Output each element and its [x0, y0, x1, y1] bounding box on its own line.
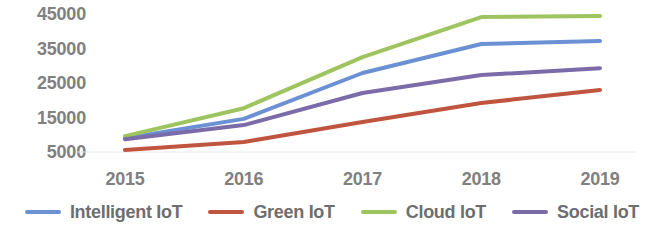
legend-item-intelligent-iot[interactable]: Intelligent IoT — [25, 202, 183, 222]
y-axis-tick-label: 5000 — [0, 143, 86, 161]
x-axis-tick-label: 2017 — [318, 168, 408, 190]
x-axis-tick-label: 2015 — [80, 168, 170, 190]
legend-label: Social IoT — [557, 202, 639, 222]
y-axis: 450003500025000150005000 — [0, 0, 86, 170]
x-axis-tick-label: 2019 — [555, 168, 645, 190]
x-axis-tick-label: 2018 — [436, 168, 526, 190]
legend-label: Cloud IoT — [406, 202, 486, 222]
legend-item-green-iot[interactable]: Green IoT — [208, 202, 334, 222]
series-line-cloud-iot — [125, 16, 600, 136]
legend-color-swatch — [361, 210, 397, 214]
legend-color-swatch — [512, 210, 548, 214]
y-axis-tick-label: 45000 — [0, 5, 86, 23]
legend-label: Intelligent IoT — [70, 202, 183, 222]
series-lines-svg — [95, 5, 635, 165]
y-axis-tick-label: 25000 — [0, 74, 86, 92]
legend-color-swatch — [208, 210, 244, 214]
x-axis: 20152016201720182019 — [95, 168, 635, 194]
legend-item-social-iot[interactable]: Social IoT — [512, 202, 639, 222]
x-axis-tick-label: 2016 — [199, 168, 289, 190]
plot-area — [95, 5, 635, 165]
legend-color-swatch — [25, 210, 61, 214]
y-axis-tick-label: 15000 — [0, 109, 86, 127]
legend-label: Green IoT — [253, 202, 334, 222]
chart-legend: Intelligent IoTGreen IoTCloud IoTSocial … — [0, 198, 664, 226]
y-axis-tick-label: 35000 — [0, 40, 86, 58]
line-chart: 450003500025000150005000 201520162017201… — [0, 0, 664, 227]
legend-item-cloud-iot[interactable]: Cloud IoT — [361, 202, 486, 222]
